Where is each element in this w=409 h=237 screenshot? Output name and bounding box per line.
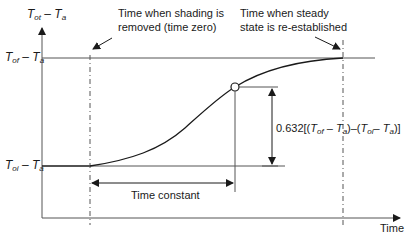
y-axis-label: Tot – Ta <box>27 8 66 24</box>
final-minus: – <box>19 50 32 64</box>
final-sub2: a <box>40 56 44 65</box>
steady-state-annotation-line2: state is re-established <box>240 21 347 33</box>
fraction-text: 0.632[(Tof – Ta)–(Toi– Ta)] <box>276 122 401 134</box>
response-curve <box>90 58 343 166</box>
x-axis-label: Time <box>380 222 404 234</box>
time-constant-label: Time constant <box>131 189 200 201</box>
time-zero-pointer <box>93 38 112 49</box>
time-constant-diagram <box>0 0 409 237</box>
final-sub1: of <box>12 56 19 65</box>
final-t2: T <box>32 50 39 64</box>
time-zero-annotation-line2: removed (time zero) <box>118 21 216 33</box>
final-level-label: Tof – Ta <box>5 51 44 67</box>
time-zero-annotation-line1: Time when shading is <box>118 7 224 19</box>
y-axis-label-sub1: ot <box>34 13 41 22</box>
initial-minus: – <box>19 158 32 172</box>
y-axis-label-t2: T <box>54 7 61 21</box>
initial-sub2: a <box>39 164 43 173</box>
steady-state-pointer <box>315 37 340 49</box>
y-axis-label-minus: – <box>41 7 54 21</box>
time-constant-point <box>231 83 239 91</box>
fraction-label: 0.632[(Tof – Ta)–(Toi– Ta)] <box>276 122 401 138</box>
y-axis-label-sub2: a <box>62 13 66 22</box>
initial-level-label: Toi – Ta <box>5 159 44 175</box>
steady-state-annotation-line1: Time when steady <box>240 7 329 19</box>
